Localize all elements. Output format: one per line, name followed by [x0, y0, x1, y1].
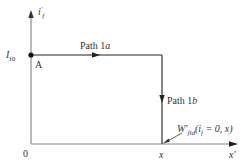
annotation-args-close: = 0, x): [203, 123, 233, 134]
annotation-sub: fld: [188, 129, 195, 137]
path-1a-label-prefix: Path 1: [80, 40, 105, 51]
start-value-label: If0: [6, 50, 15, 60]
path-1b-label-suffix: b: [192, 95, 197, 106]
path-1b-label: Path 1b: [167, 96, 197, 106]
y-axis-label: i′f: [38, 7, 44, 17]
energy-annotation: W′fld(if = 0, x): [177, 124, 233, 134]
point-a-marker: [28, 52, 33, 57]
path-1a-arrow-icon: [92, 52, 100, 57]
x-axis-label: x′: [229, 150, 236, 160]
path-1a-label-suffix: a: [105, 40, 110, 51]
annotation-leader: [163, 133, 182, 144]
diagram-canvas: [0, 0, 250, 167]
path-1a: [31, 52, 162, 57]
y-axis-arrow-icon: [28, 10, 33, 18]
path-1b-label-prefix: Path 1: [167, 95, 192, 106]
annotation-main: W′: [177, 123, 188, 134]
path-1b: [159, 55, 164, 144]
start-value-sub: f0: [9, 55, 15, 63]
leader-arrow-icon: [163, 139, 170, 144]
point-a-label: A: [35, 60, 42, 70]
path-1a-label: Path 1a: [80, 41, 110, 51]
x-tick-label: x: [159, 150, 163, 160]
x-axis: [31, 141, 238, 146]
origin-label: 0: [23, 149, 28, 159]
y-axis: [28, 10, 33, 144]
y-axis-label-sub: f: [42, 12, 44, 20]
path-1b-arrow-icon: [159, 95, 164, 103]
x-axis-arrow-icon: [229, 141, 238, 146]
